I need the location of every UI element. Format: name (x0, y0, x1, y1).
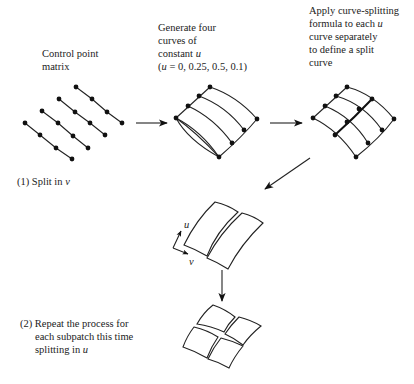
split-curve (335, 99, 372, 135)
svg-text:(2) Repeat the process for: (2) Repeat the process for (20, 318, 129, 330)
v-axis-arrow (173, 248, 188, 254)
u-axis-label: u (184, 219, 189, 230)
u-curves-patch (174, 85, 260, 160)
split-curves-patch (311, 85, 397, 160)
step2-label: (2) Repeat the process for each subpatch… (20, 318, 134, 355)
subpatches-split-u (183, 305, 261, 368)
svg-text:each subpatch this time: each subpatch this time (35, 331, 134, 342)
svg-text:splitting in u: splitting in u (35, 344, 88, 355)
subpatches-split-v (184, 202, 263, 269)
step1-label: (1) Split in v (17, 176, 70, 188)
u-axis-arrow (173, 231, 181, 248)
arrow-diagonal (265, 158, 310, 189)
v-axis-label: v (189, 256, 194, 267)
diagram-shapes: (1) Split in v u v (2) Repeat the proces… (0, 0, 414, 384)
